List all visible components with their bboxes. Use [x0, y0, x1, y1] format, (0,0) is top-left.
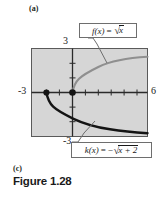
origin-marker: [69, 89, 76, 96]
annotation-f-lhs: f(x): [92, 26, 105, 36]
annotation-f-radical: √x: [114, 26, 125, 36]
annotation-box-f: f(x)=√x: [79, 23, 137, 38]
k-endpoint-marker: [43, 89, 49, 95]
axis-label-y-top: 3: [63, 36, 68, 46]
axis-label-x-left: -3: [18, 86, 26, 96]
axis-label-x-right: 6: [151, 86, 156, 96]
annotation-f-equals: =: [104, 26, 113, 36]
annotation-f-radicand: x: [119, 25, 124, 35]
annotation-k-lhs: k(x): [85, 145, 99, 155]
annotation-k-radical: √x + 2: [113, 145, 139, 155]
annotation-box-k: k(x)=−√x + 2: [71, 142, 152, 158]
annotation-k-equals: =: [99, 145, 108, 155]
annotation-k-radicand: x + 2: [118, 145, 138, 155]
panel-label-c: (c): [13, 165, 22, 173]
figure-caption: Figure 1.28: [13, 176, 72, 188]
figure-container: (a): [0, 0, 164, 198]
